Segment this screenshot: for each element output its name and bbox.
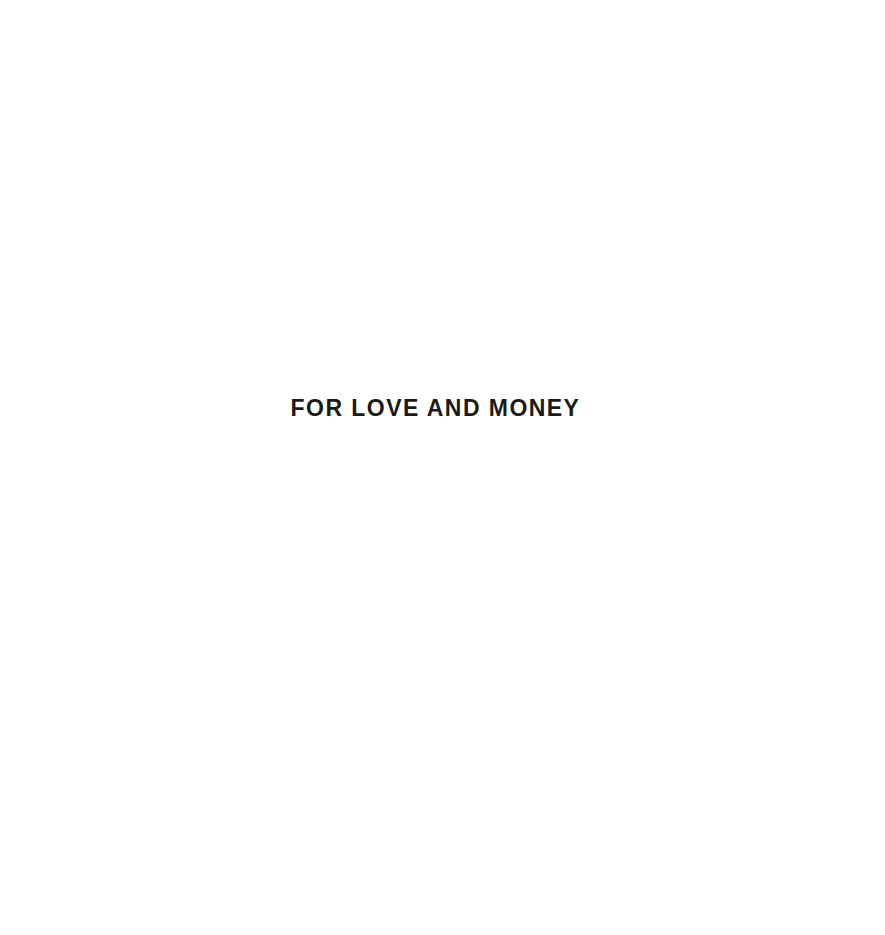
part-title-block: FOR LOVE AND MONEY	[0, 381, 885, 437]
book-page: FOR LOVE AND MONEY	[0, 0, 885, 935]
page-title: FOR LOVE AND MONEY	[291, 396, 581, 421]
